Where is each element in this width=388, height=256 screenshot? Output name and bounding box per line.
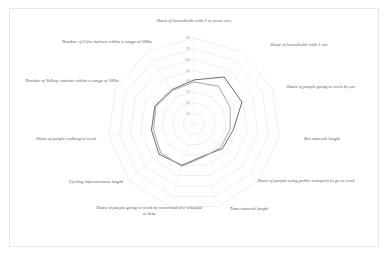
radial-tick-label: 20 xyxy=(186,101,190,105)
radial-tick-label: 70 xyxy=(186,47,190,51)
radar-chart: 1020304050607080 Share of households wit… xyxy=(0,0,388,256)
radial-tick-label: 30 xyxy=(186,90,190,94)
axis-label-top: Share of households with 2 or more cars xyxy=(148,18,240,24)
axis-label-tram-network: Tram network length xyxy=(206,206,292,212)
axis-label-two-wheeled: Share of people going to work by motoriz… xyxy=(94,205,204,216)
axis-label-cycling-infrastructure: Cycling infrastructure length xyxy=(46,179,146,185)
radar-series-polygon xyxy=(151,77,241,165)
axis-label-bus-network: Bus network length xyxy=(278,136,366,142)
axis-label-walking: Share of people walking to work xyxy=(16,136,116,142)
radial-tick-label: 10 xyxy=(186,112,190,116)
axis-label-upper-right: Share of households with 1 car xyxy=(254,42,344,48)
radial-tick-label: 80 xyxy=(186,36,190,40)
axis-label-public-transport: Share of people using public transport t… xyxy=(256,178,356,184)
radial-tick-label: 50 xyxy=(186,69,190,73)
axis-label-velhop: Number of Velhop stations within a range… xyxy=(20,78,124,84)
axis-label-citiz: Number of Citiz stations within a range … xyxy=(56,39,158,45)
axis-label-right: Share of people going to work by car xyxy=(272,84,370,90)
radial-tick-label: 60 xyxy=(186,58,190,62)
